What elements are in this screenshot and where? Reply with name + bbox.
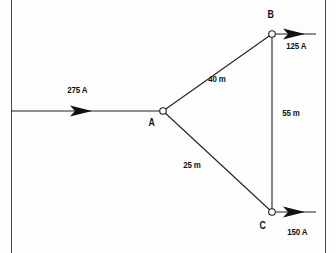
current-label-supply: 275 A: [67, 85, 87, 95]
node-label-B: B: [267, 9, 273, 20]
branch-A-C-line: [163, 111, 272, 212]
network-schematic: [0, 0, 336, 253]
branch-length-A-C: 25 m: [183, 160, 200, 170]
node-A-circle: [160, 108, 167, 115]
current-label-load-B: 125 A: [286, 41, 306, 51]
branch-length-B-C: 55 m: [282, 108, 299, 118]
node-label-C: C: [259, 220, 265, 231]
branch-length-A-B: 40 m: [208, 74, 225, 84]
current-label-load-C: 150 A: [287, 227, 307, 237]
branch-A-B-line: [163, 34, 272, 111]
diagram-page: A B C 40 m 25 m 55 m 275 A 125 A 150 A: [0, 0, 336, 253]
node-label-A: A: [148, 117, 154, 128]
node-C-circle: [269, 209, 276, 216]
node-B-circle: [269, 31, 276, 38]
